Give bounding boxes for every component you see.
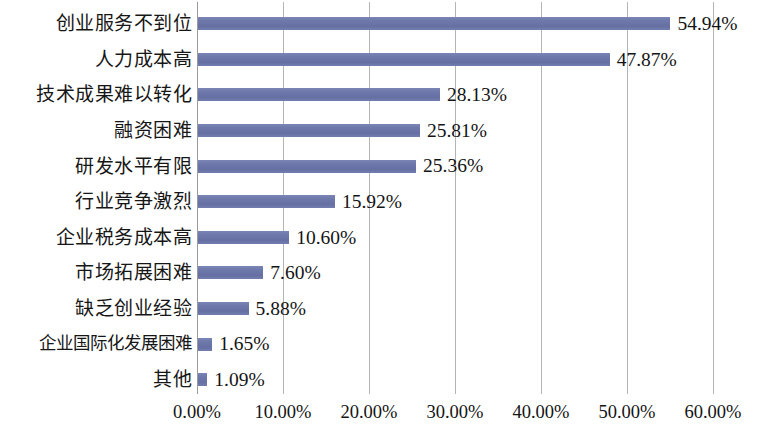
value-label: 10.60% — [296, 228, 356, 248]
value-label: 15.92% — [342, 192, 402, 212]
category-label: 行业竞争激烈 — [0, 192, 192, 211]
category-label: 市场拓展困难 — [0, 263, 192, 282]
bar — [198, 17, 670, 30]
value-label: 25.36% — [423, 156, 483, 176]
bar-row: 企业税务成本高10.60% — [0, 220, 783, 256]
bar-row: 其他1.09% — [0, 362, 783, 398]
value-label: 1.65% — [219, 334, 269, 354]
bar-row: 企业国际化发展困难1.65% — [0, 326, 783, 362]
x-axis-tick-label: 10.00% — [254, 403, 311, 422]
category-label: 技术成果难以转化 — [0, 85, 192, 104]
bar — [198, 53, 610, 66]
x-axis-tick-label: 60.00% — [684, 403, 741, 422]
category-label: 缺乏创业经验 — [0, 299, 192, 318]
bar — [198, 88, 440, 101]
x-axis-tick-label: 50.00% — [598, 403, 655, 422]
category-label: 人力成本高 — [0, 50, 192, 69]
bar — [198, 231, 289, 244]
bar-row: 技术成果难以转化28.13% — [0, 77, 783, 113]
bar — [198, 195, 335, 208]
category-label: 研发水平有限 — [0, 157, 192, 176]
bar-row: 研发水平有限25.36% — [0, 148, 783, 184]
x-axis-tick-label: 30.00% — [426, 403, 483, 422]
bar-row: 融资困难25.81% — [0, 113, 783, 149]
bar — [198, 160, 416, 173]
category-label: 融资困难 — [0, 121, 192, 140]
category-label: 企业税务成本高 — [0, 228, 192, 247]
bar-chart: 创业服务不到位54.94%人力成本高47.87%技术成果难以转化28.13%融资… — [0, 0, 783, 429]
value-label: 25.81% — [427, 121, 487, 141]
x-axis-tick-label: 0.00% — [173, 403, 221, 422]
category-label: 创业服务不到位 — [0, 14, 192, 33]
bar-row: 缺乏创业经验5.88% — [0, 291, 783, 327]
bar-row: 人力成本高47.87% — [0, 42, 783, 78]
bar — [198, 124, 420, 137]
bar-row: 市场拓展困难7.60% — [0, 255, 783, 291]
bar-row: 行业竞争激烈15.92% — [0, 184, 783, 220]
value-label: 54.94% — [677, 14, 737, 34]
bar-rows: 创业服务不到位54.94%人力成本高47.87%技术成果难以转化28.13%融资… — [0, 0, 783, 394]
value-label: 5.88% — [256, 299, 306, 319]
bar — [198, 338, 212, 351]
value-label: 28.13% — [447, 85, 507, 105]
bar — [198, 373, 207, 386]
value-label: 7.60% — [270, 263, 320, 283]
value-label: 47.87% — [617, 50, 677, 70]
category-label: 企业国际化发展困难 — [0, 335, 192, 353]
x-axis-tick-label: 40.00% — [512, 403, 569, 422]
x-axis-tick-label: 20.00% — [340, 403, 397, 422]
value-label: 1.09% — [214, 370, 264, 390]
bar — [198, 266, 263, 279]
category-label: 其他 — [0, 370, 192, 389]
bar-row: 创业服务不到位54.94% — [0, 6, 783, 42]
bar — [198, 302, 249, 315]
x-axis: 0.00%10.00%20.00%30.00%40.00%50.00%60.00… — [0, 394, 783, 429]
